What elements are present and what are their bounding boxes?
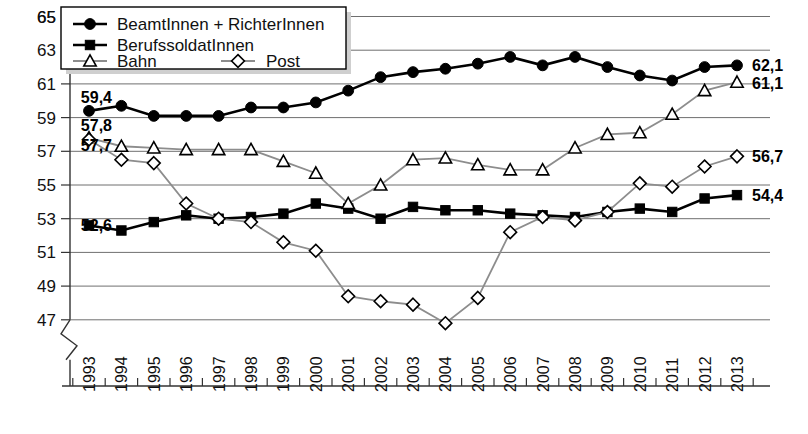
data-point-marker [668, 207, 677, 216]
data-point-marker [311, 199, 320, 208]
line-chart: 4749515355575961636565 19931994199519961… [0, 0, 808, 434]
data-point-marker [148, 111, 159, 122]
data-point-marker [115, 153, 128, 166]
x-axis-tick-label: 2005 [470, 356, 487, 392]
data-point-marker [277, 155, 289, 166]
y-axis-break-icon [61, 320, 77, 360]
data-point-marker [375, 72, 386, 83]
data-point-marker [667, 75, 678, 86]
y-axis-tick-label: 61 [37, 75, 56, 94]
x-axis-tick-label: 2001 [340, 356, 357, 392]
x-axis-tick-label: 1997 [211, 356, 228, 392]
data-value-label: 52,6 [81, 217, 112, 234]
data-point-marker [213, 111, 224, 122]
x-axis-tick-label: 2006 [502, 356, 519, 392]
data-value-label: 59,4 [81, 89, 112, 106]
x-axis-tick-label: 1999 [275, 356, 292, 392]
data-point-marker [84, 105, 95, 116]
y-axis-tick-label: 55 [37, 176, 56, 195]
data-point-marker [278, 102, 289, 113]
data-value-label: 62,1 [752, 57, 783, 74]
data-point-marker [309, 244, 322, 257]
data-value-label: 57,8 [81, 117, 112, 134]
x-axis-tick-label: 2003 [405, 356, 422, 392]
data-point-marker [732, 190, 741, 199]
x-axis-tick-label: 2000 [308, 356, 325, 392]
data-point-marker [440, 63, 451, 74]
x-axis-tick-label: 2009 [599, 356, 616, 392]
y-axis-tick-label: 59 [37, 109, 56, 128]
x-axis-tick-label: 1995 [146, 356, 163, 392]
data-point-marker [376, 214, 385, 223]
data-point-marker [310, 167, 322, 178]
data-point-marker [666, 108, 678, 119]
x-axis-tick-label: 1993 [81, 356, 98, 392]
data-point-marker [441, 206, 450, 215]
data-point-marker [731, 76, 743, 87]
data-point-marker [149, 217, 158, 226]
data-point-marker [732, 60, 743, 71]
y-axis-tick-label: 53 [37, 210, 56, 229]
data-point-marker [506, 209, 515, 218]
data-point-marker [117, 226, 126, 235]
x-axis-tick-label: 2002 [373, 356, 390, 392]
data-point-marker [473, 206, 482, 215]
x-axis-tick-label: 2008 [567, 356, 584, 392]
data-point-marker [181, 111, 192, 122]
data-point-marker [505, 52, 516, 63]
data-point-marker [731, 150, 744, 163]
data-series-group [83, 52, 744, 330]
data-point-marker [342, 290, 355, 303]
x-axis-tick-label: 1996 [178, 356, 195, 392]
data-point-marker [116, 100, 127, 111]
data-point-marker [407, 298, 420, 311]
data-point-marker [504, 226, 517, 239]
y-axis-tick-label: 49 [37, 277, 56, 296]
data-point-marker [182, 211, 191, 220]
y-axis-tick-label: 47 [37, 311, 56, 330]
chart-legend: BeamtInnen + RichterInnenBerufssoldatInn… [61, 7, 351, 74]
series-1 [84, 190, 741, 235]
data-point-marker [634, 70, 645, 81]
data-point-marker [374, 295, 387, 308]
x-axis-tick-label: 1994 [113, 356, 130, 392]
data-point-marker [277, 236, 290, 249]
data-point-marker [602, 62, 613, 73]
data-value-label: 57,7 [81, 137, 112, 154]
x-axis-tick-label: 2013 [729, 356, 746, 392]
data-point-marker [85, 19, 96, 30]
x-axis-tick-label: 2011 [664, 357, 681, 392]
legend-item-label: BeamtInnen + RichterInnen [117, 15, 324, 34]
y-axis-tick-label: 51 [37, 243, 56, 262]
data-value-label: 61,1 [752, 75, 783, 92]
data-point-marker [635, 204, 644, 213]
data-point-marker [246, 102, 257, 113]
y-axis-tick-label: 65 [37, 8, 56, 27]
y-axis-tick-label: 63 [37, 41, 56, 60]
data-point-marker [570, 52, 581, 63]
data-point-marker [569, 142, 581, 153]
data-point-marker [279, 209, 288, 218]
x-axis-labels: 1993199419951996199719981999200020012002… [81, 356, 746, 392]
data-value-label: 54,4 [752, 187, 783, 204]
x-axis-tick-label: 2010 [632, 356, 649, 392]
x-axis-tick-label: 2004 [437, 356, 454, 392]
data-point-marker [310, 97, 321, 108]
x-axis-tick-label: 2012 [697, 356, 714, 392]
x-axis-tick-label: 1998 [243, 356, 260, 392]
legend-item-label: Post [266, 52, 300, 71]
y-axis-labels: 4749515355575961636565 [37, 8, 56, 330]
data-point-marker [408, 202, 417, 211]
data-point-marker [408, 67, 419, 78]
series-line [89, 140, 737, 324]
data-point-marker [537, 60, 548, 71]
legend-item-label: Bahn [117, 52, 157, 71]
series-2 [83, 76, 743, 209]
data-point-marker [699, 62, 710, 73]
data-point-marker [700, 194, 709, 203]
data-point-marker [698, 160, 711, 173]
data-point-marker [343, 85, 354, 96]
y-axis-tick-label: 57 [37, 142, 56, 161]
x-axis-tick-label: 2007 [535, 356, 552, 392]
data-point-marker [85, 40, 94, 49]
